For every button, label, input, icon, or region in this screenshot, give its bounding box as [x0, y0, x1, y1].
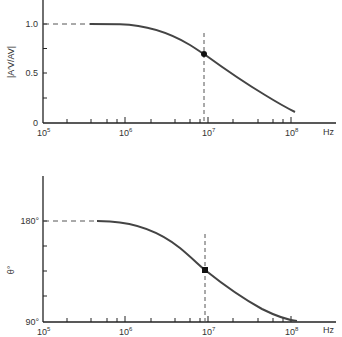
top-x-tick-1e5: 105	[37, 127, 51, 138]
bottom-x-tick-1e7: 107	[202, 326, 216, 337]
bottom-y-tick-90: 90°	[25, 317, 39, 327]
top-y-tick-0: 0	[33, 118, 38, 128]
top-x-tick-1e7: 107	[202, 127, 216, 138]
bottom-y-axis-title: θ°	[6, 265, 16, 274]
phase-chart: 180° 90° 105 106 107 108 Hz θ°	[6, 176, 336, 337]
top-x-tick-1e6: 106	[119, 127, 133, 138]
bottom-x-ticks	[67, 316, 291, 322]
magnitude-chart: 1.0 0.5 0 105 106 107 108 Hz |A′V/AV|	[6, 0, 336, 138]
bottom-x-unit: Hz	[323, 325, 334, 335]
top-x-unit: Hz	[323, 127, 334, 137]
top-y-tick-1: 1.0	[25, 19, 38, 29]
bottom-y-tick-180: 180°	[20, 216, 39, 226]
phase-midpoint	[202, 267, 208, 273]
top-y-tick-05: 0.5	[25, 68, 38, 78]
top-y-axis-title: |A′V/AV|	[6, 46, 16, 78]
top-x-ticks	[67, 117, 291, 123]
top-x-tick-1e8: 108	[285, 127, 299, 138]
magnitude-curve	[90, 24, 295, 112]
bottom-x-tick-1e6: 106	[119, 326, 133, 337]
phase-curve	[97, 221, 297, 321]
bottom-x-tick-1e8: 108	[285, 326, 299, 337]
bottom-x-tick-1e5: 105	[37, 326, 51, 337]
magnitude-3db-point	[201, 51, 207, 57]
bode-plot-figure: 1.0 0.5 0 105 106 107 108 Hz |A′V/AV|	[0, 0, 342, 337]
